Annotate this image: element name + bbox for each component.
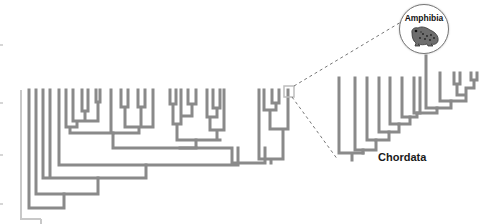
tree-branch: [339, 78, 363, 160]
margin-tick: [0, 203, 3, 205]
tree-branch: [376, 78, 389, 140]
tree-branch: [170, 90, 224, 140]
chordata-label: Chordata: [378, 151, 426, 163]
margin-tick: [0, 154, 3, 156]
frog-icon: [409, 24, 441, 48]
tree-branch: [437, 73, 451, 108]
tree-branch: [180, 140, 265, 163]
dashed-connector-bottom: [292, 97, 338, 160]
tree-branch: [66, 90, 113, 133]
tree-branch: [259, 90, 288, 163]
main-cladogram: [21, 86, 294, 224]
tree-branch: [410, 78, 420, 117]
margin-tick: [0, 44, 3, 46]
amphibia-badge: Amphibia: [399, 4, 449, 54]
tree-branch: [355, 78, 363, 153]
tree-branch: [451, 73, 477, 101]
tree-branch: [399, 78, 410, 124]
root-branch: [21, 90, 41, 224]
dashed-connector-top: [294, 22, 401, 86]
phylogenetic-diagram: Amphibia Chordata: [0, 0, 502, 224]
expanded-subclade-cladogram: [339, 56, 477, 160]
tree-branch: [363, 78, 376, 150]
margin-tick: [0, 102, 3, 104]
amphibia-label: Amphibia: [400, 13, 448, 23]
